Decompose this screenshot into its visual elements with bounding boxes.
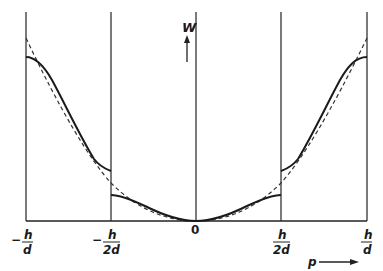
svg-text:2d: 2d: [103, 243, 120, 257]
tick-label-minus-h-d: − h d: [11, 228, 33, 257]
svg-text:−: −: [11, 233, 21, 247]
vertical-gridlines: [26, 12, 367, 221]
p-arrow-head-icon: [350, 259, 359, 265]
w-arrow-head-icon: [184, 35, 190, 43]
band-curve-left-outer: [26, 57, 111, 171]
svg-text:h: h: [278, 228, 287, 242]
tick-label-zero: 0: [191, 223, 199, 237]
band-curve-right-outer: [281, 57, 367, 171]
svg-text:2d: 2d: [273, 243, 290, 257]
svg-text:h: h: [108, 228, 117, 242]
tick-label-h-d: h d: [361, 228, 373, 257]
tick-label-minus-h-2d: − h 2d: [92, 228, 120, 257]
svg-text:h: h: [364, 228, 373, 242]
svg-text:−: −: [92, 233, 102, 247]
w-axis-label: W: [182, 20, 197, 35]
tick-label-h-2d: h 2d: [273, 228, 290, 257]
band-diagram: W − h d − h 2d 0 h 2d h d p: [0, 0, 383, 271]
p-axis-label: p: [307, 255, 317, 269]
svg-text:h: h: [24, 228, 33, 242]
svg-text:0: 0: [191, 223, 199, 237]
svg-text:d: d: [363, 243, 372, 257]
svg-text:d: d: [23, 243, 32, 257]
